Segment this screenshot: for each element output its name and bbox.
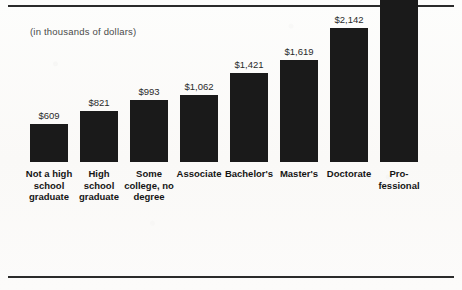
bar-column[interactable] <box>280 60 318 162</box>
bottom-divider-rule <box>8 276 454 278</box>
bar-column[interactable] <box>80 111 118 162</box>
bar-group: $1,619Master's <box>274 0 324 162</box>
bar-column[interactable] <box>330 28 368 162</box>
bar-group: $1,421Bachelor's <box>224 0 274 162</box>
bar-value-label: $609 <box>18 110 80 121</box>
bar-category-label-line: fessional <box>365 180 433 192</box>
bar-column[interactable] <box>380 0 418 162</box>
bar-group: $821Highschoolgraduate <box>74 0 124 162</box>
bar-chart-figure: (in thousands of dollars) $609Not a high… <box>0 0 462 290</box>
bar-value-label: $1,421 <box>218 59 280 70</box>
plot-area: $609Not a highschoolgraduate$821Highscho… <box>0 0 462 226</box>
bar-category-label: Pro-fessional <box>365 168 433 191</box>
bar-value-label: $821 <box>68 97 130 108</box>
bar-column[interactable] <box>180 95 218 162</box>
bar-group: $609Not a highschoolgraduate <box>24 0 74 162</box>
bar-category-label-line: degree <box>115 191 183 203</box>
bar-category-label-line: Pro- <box>365 168 433 180</box>
bar-column[interactable] <box>130 100 168 162</box>
bar-column[interactable] <box>30 124 68 162</box>
bar-column[interactable] <box>230 73 268 162</box>
bar-group: $3,013Pro-fessional <box>374 0 424 162</box>
bar-value-label: $1,619 <box>268 46 330 57</box>
bar-value-label: $1,062 <box>168 81 230 92</box>
bar-value-label: $2,142 <box>318 14 380 25</box>
bar-group: $2,142Doctorate <box>324 0 374 162</box>
bar-category-label-line: college, no <box>115 180 183 192</box>
bar-group: $993Somecollege, nodegree <box>124 0 174 162</box>
bar-group: $1,062Associate <box>174 0 224 162</box>
